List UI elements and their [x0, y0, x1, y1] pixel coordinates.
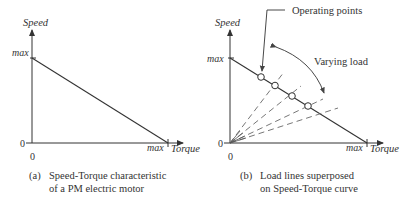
varying-load-label: Varying load: [314, 56, 369, 67]
panel-b-speed-torque-line: [230, 58, 367, 143]
operating-points-label: Operating points: [292, 5, 362, 16]
panel-b-caption-tag: (b): [240, 169, 260, 182]
panel-b-x-zero-label: 0: [228, 151, 233, 162]
load-lines-solid-base: [230, 131, 246, 143]
panel-a-x-axis-label: Torque: [171, 143, 200, 154]
panel-a-x-max-label: max: [147, 142, 164, 153]
panel-a-x-zero-label: 0: [30, 151, 35, 162]
panel-a-y-axis-label: Speed: [23, 17, 49, 28]
panel-a-y-max-label: max: [12, 47, 29, 58]
operating-points-leader-line: [262, 10, 285, 71]
panel-b-caption-line1: Load lines superposed: [260, 170, 354, 181]
panel-b-x-max-label: max: [346, 142, 363, 153]
panel-a-caption-line1: Speed-Torque characteristic: [49, 170, 166, 181]
panel-a-chart: Speed max 0 0 max Torque: [12, 17, 200, 162]
panel-b-y-axis-label: Speed: [215, 17, 241, 28]
panel-a-caption-line2: of a PM electric motor: [29, 182, 166, 195]
operating-point-2: [272, 82, 279, 89]
panel-a-speed-torque-line: [32, 58, 168, 143]
operating-point-4: [305, 103, 312, 110]
varying-load-arrow: [276, 47, 324, 93]
panel-b-chart: Operating points Varying load Speed max …: [207, 5, 399, 162]
panel-a-y-zero-label: 0: [20, 138, 25, 149]
panel-a-caption-tag: (a): [29, 169, 49, 182]
operating-point-1: [258, 74, 265, 81]
load-lines: [230, 72, 338, 143]
panel-b-y-max-label: max: [207, 53, 224, 64]
operating-point-3: [289, 93, 296, 100]
panel-b-y-zero-label: 0: [218, 138, 223, 149]
panel-b-caption: (b)Load lines superposed on Speed-Torque…: [240, 169, 358, 195]
panel-b-x-axis-label: Torque: [370, 143, 399, 154]
panel-a-caption: (a)Speed-Torque characteristic of a PM e…: [29, 169, 166, 195]
load-line-4: [230, 108, 338, 143]
panel-b-caption-line2: on Speed-Torque curve: [240, 182, 358, 195]
